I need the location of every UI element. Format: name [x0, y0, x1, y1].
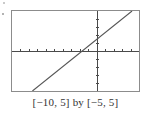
- plot-area: [12, 11, 139, 91]
- graphing-calculator-screen: [11, 10, 140, 92]
- figure-caption: [−10, 5] by [−5, 5]: [0, 95, 151, 109]
- plotted-line: [12, 11, 139, 91]
- margin-speck-bullet: [2, 13, 4, 15]
- margin-speck-top: [3, 2, 5, 4]
